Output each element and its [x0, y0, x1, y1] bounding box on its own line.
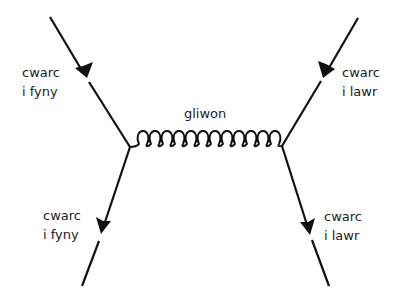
label-top-left-line2: i fyny	[22, 82, 60, 101]
label-bottom-left-line2: i fyny	[43, 225, 81, 244]
arrow-icon	[300, 218, 315, 235]
label-bottom-right-line1: cwarc	[324, 207, 362, 226]
label-top-right-line2: i lawr	[342, 82, 380, 101]
label-gluon-text: gliwon	[184, 104, 226, 123]
label-gluon: gliwon	[184, 104, 226, 123]
label-bottom-right-line2: i lawr	[324, 226, 362, 245]
label-top-right: cwarc i lawr	[342, 63, 380, 101]
arrow-icon	[96, 217, 111, 234]
quark-line-bottom-left	[82, 147, 130, 286]
label-bottom-right: cwarc i lawr	[324, 207, 362, 245]
label-top-right-line1: cwarc	[342, 63, 380, 82]
quark-line-top-left	[50, 17, 130, 147]
label-top-left-line1: cwarc	[22, 63, 60, 82]
diagram-graphics	[0, 0, 398, 303]
quark-line-bottom-right	[282, 146, 329, 286]
feynman-diagram: cwarc i fyny cwarc i lawr gliwon cwarc i…	[0, 0, 398, 303]
label-top-left: cwarc i fyny	[22, 63, 60, 101]
gluon-coil	[130, 131, 282, 147]
label-bottom-left: cwarc i fyny	[43, 206, 81, 244]
label-bottom-left-line1: cwarc	[43, 206, 81, 225]
